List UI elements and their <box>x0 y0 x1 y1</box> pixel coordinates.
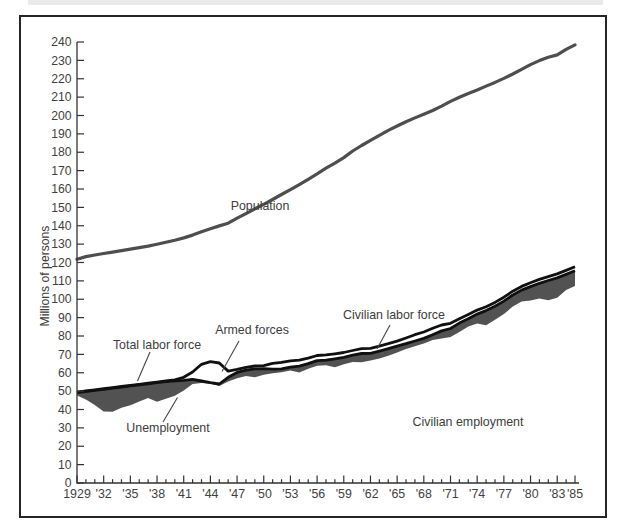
x-tick-label: '35 <box>122 487 138 501</box>
y-tick-label: 170 <box>51 164 72 178</box>
figure: 0102030405060708090100110120130140150160… <box>0 0 621 527</box>
total-labor-force-line <box>77 267 575 393</box>
x-tick-label: '83 <box>549 487 565 501</box>
y-tick-label: 230 <box>51 54 72 68</box>
total-labor-force-leader <box>138 352 151 381</box>
y-tick-label: 240 <box>51 35 72 49</box>
y-tick-label: 100 <box>51 292 72 306</box>
y-tick-label: 50 <box>58 384 72 398</box>
civilian-labor-force-label: Civilian labor force <box>343 309 445 322</box>
y-axis-title: Millions of persons <box>38 226 52 327</box>
y-tick-label: 160 <box>51 182 72 196</box>
x-tick-label: '50 <box>256 487 272 501</box>
x-tick-label: '71 <box>442 487 458 501</box>
x-tick-label: '62 <box>362 487 378 501</box>
x-tick-label: '44 <box>202 487 218 501</box>
y-tick-label: 180 <box>51 145 72 159</box>
civilian-employment-label: Civilian employment <box>413 416 524 429</box>
y-tick-label: 150 <box>51 201 72 215</box>
x-tick-label: '53 <box>282 487 298 501</box>
y-tick-label: 10 <box>58 458 72 472</box>
y-tick-label: 70 <box>58 348 72 362</box>
y-tick-label: 20 <box>58 439 72 453</box>
x-tick-label: '80 <box>522 487 538 501</box>
x-tick-label: 1929 <box>63 487 91 501</box>
x-tick-label: '59 <box>336 487 352 501</box>
x-tick-label: '32 <box>96 487 112 501</box>
x-tick-label: '47 <box>229 487 245 501</box>
y-tick-label: 90 <box>58 311 72 325</box>
total-labor-force-label: Total labor force <box>113 339 201 352</box>
x-tick-label: '74 <box>469 487 485 501</box>
x-tick-label: '85 <box>567 487 583 501</box>
unemployment-leader <box>163 398 178 423</box>
chart-canvas: 0102030405060708090100110120130140150160… <box>0 0 621 527</box>
y-tick-label: 130 <box>51 237 72 251</box>
y-tick-label: 140 <box>51 219 72 233</box>
y-tick-label: 40 <box>58 403 72 417</box>
population-label: Population <box>231 200 290 213</box>
y-tick-label: 200 <box>51 109 72 123</box>
population-line <box>77 45 575 259</box>
armed-forces-leader <box>222 341 239 372</box>
y-tick-label: 220 <box>51 72 72 86</box>
y-tick-label: 190 <box>51 127 72 141</box>
x-tick-label: '41 <box>176 487 192 501</box>
x-tick-label: '56 <box>309 487 325 501</box>
x-tick-label: '68 <box>416 487 432 501</box>
y-tick-label: 210 <box>51 90 72 104</box>
y-tick-label: 60 <box>58 366 72 380</box>
armed-forces-label: Armed forces <box>215 324 289 337</box>
y-tick-label: 120 <box>51 256 72 270</box>
x-tick-label: '77 <box>496 487 512 501</box>
unemployment-label: Unemployment <box>126 422 209 435</box>
x-tick-label: '65 <box>389 487 405 501</box>
y-tick-label: 80 <box>58 329 72 343</box>
y-tick-label: 30 <box>58 421 72 435</box>
civilian-labor-force-line <box>77 271 575 393</box>
x-tick-label: '38 <box>149 487 165 501</box>
y-tick-label: 110 <box>52 274 72 288</box>
